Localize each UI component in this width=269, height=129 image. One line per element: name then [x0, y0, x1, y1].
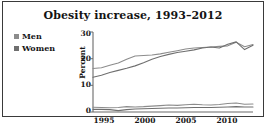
chart-legend: Men Women: [14, 31, 69, 55]
legend-item-women[interactable]: Women: [14, 43, 69, 53]
chart-title: Obesity increase, 1993–2012: [3, 9, 263, 22]
figure-frame: Obesity increase, 1993–2012 Men Women Pe…: [2, 1, 264, 117]
legend-swatch-men: [14, 34, 19, 39]
legend-item-men[interactable]: Men: [14, 31, 69, 41]
caption-strip: [0, 119, 269, 129]
series-line-0: [93, 42, 253, 68]
series-line-1: [93, 42, 253, 77]
legend-label-women: Women: [22, 44, 55, 53]
figure-container: Obesity increase, 1993–2012 Men Women Pe…: [0, 0, 269, 129]
legend-label-men: Men: [22, 32, 42, 41]
series-group: [93, 42, 253, 111]
legend-swatch-women: [14, 46, 19, 51]
chart-plot-svg: [63, 28, 261, 118]
plot-area: Percent 30 20 10 0 1995 2000 2005 2010: [63, 28, 261, 118]
